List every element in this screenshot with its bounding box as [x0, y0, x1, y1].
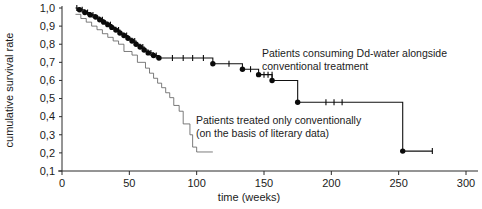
x-axis-tick-label: 250	[389, 177, 407, 189]
y-axis-title: cumulative survival rate	[3, 33, 15, 148]
y-axis-tick-label: 0,1	[40, 165, 55, 177]
y-axis-tick-label: 0,8	[40, 38, 55, 50]
event-marker	[400, 148, 405, 153]
event-marker	[145, 50, 150, 55]
x-axis-tick-label: 300	[457, 177, 475, 189]
y-axis-tick-label: 0,9	[40, 20, 55, 32]
event-marker	[151, 53, 156, 58]
event-marker	[295, 99, 300, 104]
event-marker	[240, 67, 245, 72]
x-axis-tick-label: 150	[255, 177, 273, 189]
chart-canvas: 0,10,20,30,40,50,60,70,80,91,0 050100150…	[0, 0, 482, 209]
y-axis-tick-labels: 0,10,20,30,40,50,60,70,80,91,0	[40, 2, 55, 177]
annotation-upper-curve: Patients consuming Dd-water alongsidecon…	[262, 47, 447, 72]
event-marker	[210, 61, 215, 66]
event-marker	[269, 78, 274, 83]
series-1	[75, 14, 212, 152]
y-axis-tick-label: 1,0	[40, 2, 55, 14]
event-marker	[88, 12, 93, 17]
annotation-line: conventional treatment	[262, 60, 368, 72]
x-axis-tick-labels: 050100150200250300	[59, 177, 475, 189]
annotation-lower-curve: Patients treated only conventionally(on …	[196, 114, 362, 139]
event-marker	[82, 10, 87, 15]
event-marker	[256, 72, 261, 77]
survival-curve-line	[75, 14, 212, 152]
y-axis-tick-label: 0,2	[40, 147, 55, 159]
x-axis-tick-label: 200	[322, 177, 340, 189]
x-axis-tick-label: 100	[187, 177, 205, 189]
event-marker	[156, 55, 161, 60]
annotation-line: (on the basis of literary data)	[196, 127, 329, 139]
y-axis-tick-label: 0,4	[40, 110, 55, 122]
y-axis-tick-label: 0,3	[40, 129, 55, 141]
annotation-layer: Patients consuming Dd-water alongsidecon…	[196, 47, 447, 139]
x-axis-tick-label: 50	[123, 177, 135, 189]
x-axis-title: time (weeks)	[218, 191, 280, 203]
y-axis-tick-label: 0,5	[40, 92, 55, 104]
annotation-line: Patients treated only conventionally	[196, 114, 362, 126]
km-survival-chart: 0,10,20,30,40,50,60,70,80,91,0 050100150…	[0, 0, 482, 209]
event-marker	[77, 7, 82, 12]
x-axis-tick-label: 0	[59, 177, 65, 189]
y-axis-tick-label: 0,6	[40, 74, 55, 86]
y-axis-tick-label: 0,7	[40, 56, 55, 68]
annotation-line: Patients consuming Dd-water alongside	[262, 47, 447, 59]
